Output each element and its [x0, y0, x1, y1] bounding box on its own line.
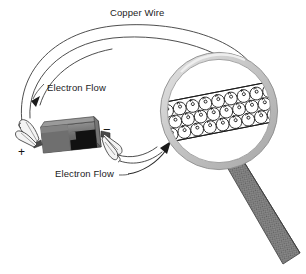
alligator-clip-negative	[102, 134, 122, 162]
label-copper-wire: Copper Wire	[110, 7, 164, 18]
bottom-wire-curve	[118, 147, 162, 163]
alligator-clip-positive	[16, 120, 40, 147]
diagram-canvas: Copper Wire Electron Flow Electron Flow …	[0, 0, 306, 274]
label-positive-terminal: +	[18, 146, 25, 158]
magnifying-glass	[134, 52, 303, 169]
diagram-artwork	[0, 0, 306, 274]
electron-flow-arrow-to-lens	[128, 141, 171, 174]
label-electron-flow-top: Electron Flow	[47, 82, 106, 93]
electron-flow-leader-top	[33, 84, 44, 99]
magnifying-glass-handle	[221, 152, 300, 264]
electron-flow-leader-bottom	[119, 174, 129, 175]
battery-cell	[33, 116, 110, 153]
label-negative-terminal: −	[103, 123, 111, 136]
electron-flow-arrow-left	[31, 96, 40, 107]
label-electron-flow-bottom: Electron Flow	[55, 168, 114, 179]
